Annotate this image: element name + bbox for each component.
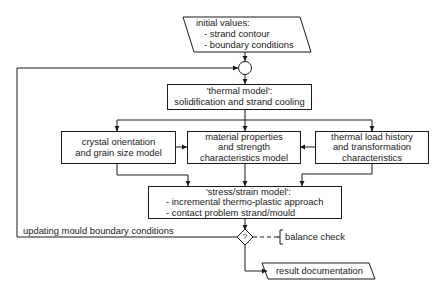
stress-model-item: - contact problem strand/mould [166, 208, 295, 219]
thermal-model-subtitle: solidification and strand cooling [174, 97, 304, 108]
thermal-model-box: 'thermal model': solidification and stra… [167, 84, 312, 110]
crystal-model-box: crystal orientation and grain size model [61, 131, 176, 164]
input-item-boundary-conditions: - boundary conditions [204, 40, 294, 51]
input-title: initial values: [196, 18, 250, 29]
stress-strain-model-box: 'stress/strain model': - incremental the… [148, 186, 342, 219]
material-model-box: material properties and strength charact… [187, 131, 301, 164]
crystal-model-line: crystal orientation [82, 137, 155, 148]
thermal-load-box: thermal load history and transformation … [315, 131, 429, 164]
thermal-load-line: characteristics [342, 153, 402, 164]
input-item-strand-contour: - strand contour [204, 29, 270, 40]
material-model-line: characteristics model [200, 153, 288, 164]
balance-check-annotation: balance check [285, 231, 345, 242]
junction-circle [239, 62, 252, 75]
result-documentation-label: result documentation [276, 265, 363, 276]
decision-symbol: ? [240, 233, 250, 241]
annotation-bracket [277, 230, 283, 244]
crystal-model-line: and grain size model [75, 148, 162, 159]
loop-label: updating mould boundary conditions [23, 225, 174, 236]
